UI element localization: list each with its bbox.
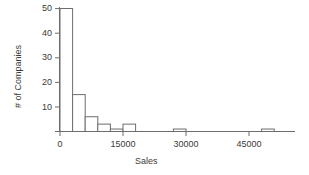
bar-0-3000 bbox=[60, 9, 73, 132]
bar-48000-51000 bbox=[262, 129, 275, 131]
x-axis-title: Sales bbox=[135, 157, 158, 166]
x-axis-ticks bbox=[60, 132, 249, 137]
bar-3000-6000 bbox=[73, 95, 86, 132]
bar-6000-9000 bbox=[85, 117, 98, 132]
histogram-figure: 50 40 30 20 10 0 15000 30000 45000 # of … bbox=[0, 0, 309, 175]
histogram-bars bbox=[60, 9, 274, 132]
bar-27000-30000 bbox=[173, 129, 186, 131]
bar-15000-18000 bbox=[123, 124, 136, 131]
y-tick-label-40: 40 bbox=[28, 29, 52, 38]
y-axis-title: # of Companies bbox=[14, 45, 23, 108]
y-tick-label-50: 50 bbox=[28, 4, 52, 13]
y-tick-label-10: 10 bbox=[28, 103, 52, 112]
x-tick-label-0: 0 bbox=[40, 140, 80, 149]
y-tick-label-30: 30 bbox=[28, 53, 52, 62]
y-axis-ticks bbox=[55, 9, 60, 132]
x-tick-label-45000: 45000 bbox=[229, 140, 269, 149]
y-tick-label-20: 20 bbox=[28, 78, 52, 87]
x-tick-label-15000: 15000 bbox=[103, 140, 143, 149]
bar-12000-15000 bbox=[110, 129, 123, 131]
x-tick-label-30000: 30000 bbox=[166, 140, 206, 149]
bar-9000-12000 bbox=[98, 124, 111, 131]
